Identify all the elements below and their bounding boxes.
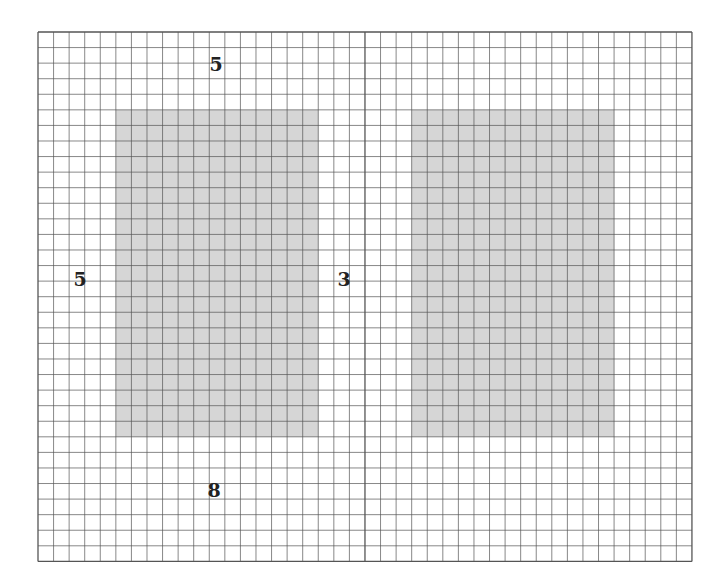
bottom-margin-label: 8	[207, 479, 220, 501]
top-margin-label: 5	[209, 53, 222, 75]
left-margin-label: 5	[73, 268, 86, 290]
gap-label: 3	[337, 268, 350, 290]
grid-paper	[0, 0, 726, 588]
left-rectangle	[116, 110, 318, 437]
right-rectangle	[412, 110, 614, 437]
